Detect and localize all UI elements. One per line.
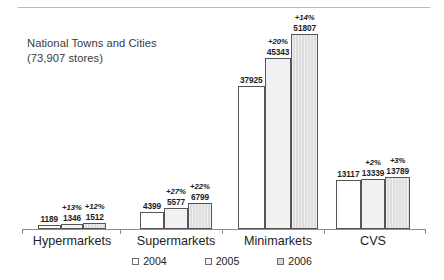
bar-value-label: 13789 [386, 166, 409, 176]
bar-slot-cvs-2004: 13117 [336, 14, 361, 229]
bar-cvs-2004[interactable]: 13117 [336, 180, 361, 229]
bar-slot-supermarkets-2004: 4399 [140, 14, 164, 229]
bar-growth-label: +13% [62, 203, 82, 212]
bar-group-hypermarkets: 11891346+13%1512+12% [38, 14, 106, 229]
bar-row: 1311713339+2%13789+3% [336, 14, 410, 229]
legend-label-2006: 2006 [288, 255, 312, 267]
x-axis-tick-4 [425, 230, 426, 234]
bar-growth-label: +14% [295, 13, 315, 22]
bar-growth-label: +20% [268, 37, 288, 46]
bar-minimarkets-2004[interactable]: 37925 [238, 86, 265, 229]
bar-slot-minimarkets-2005: 45343+20% [265, 14, 292, 229]
chart-container: National Towns and Cities (73,907 stores… [0, 0, 444, 280]
bar-supermarkets-2004[interactable]: 4399 [140, 212, 164, 229]
bar-slot-hypermarkets-2006: 1512+12% [83, 14, 106, 229]
bar-minimarkets-2006[interactable]: 51807+14% [291, 34, 318, 229]
bar-slot-cvs-2006: 13789+3% [385, 14, 410, 229]
legend-swatch-icon-2005 [205, 258, 212, 265]
bar-value-label: 1189 [41, 214, 59, 224]
bar-value-label: 1512 [86, 212, 104, 222]
x-axis-tick-1 [120, 230, 121, 234]
legend-item-2006[interactable]: 2006 [277, 255, 312, 267]
bar-value-label: 13339 [362, 168, 385, 178]
top-divider-rule [18, 7, 430, 8]
legend-label-2005: 2005 [216, 255, 240, 267]
bar-value-label: 37925 [240, 75, 263, 85]
bar-value-label: 1346 [63, 213, 81, 223]
bar-value-label: 6799 [191, 192, 209, 202]
bar-row: 11891346+13%1512+12% [38, 14, 106, 229]
bar-supermarkets-2005[interactable]: 5577+27% [164, 208, 188, 229]
bar-slot-supermarkets-2006: 6799+22% [188, 14, 212, 229]
bar-growth-label: +3% [390, 156, 406, 165]
bar-slot-hypermarkets-2004: 1189 [38, 14, 61, 229]
legend-item-2005[interactable]: 2005 [205, 255, 240, 267]
legend-swatch-icon-2006 [277, 258, 284, 265]
category-label-cvs: CVS [306, 234, 440, 248]
chart-legend: 2004 2005 2006 [0, 255, 444, 267]
bar-slot-hypermarkets-2005: 1346+13% [61, 14, 84, 229]
x-axis-tick-0 [22, 230, 23, 234]
bar-slot-cvs-2005: 13339+2% [361, 14, 386, 229]
bar-growth-label: +12% [85, 202, 105, 211]
bar-supermarkets-2006[interactable]: 6799+22% [188, 203, 212, 229]
bar-slot-minimarkets-2006: 51807+14% [291, 14, 318, 229]
bar-row: 3792545343+20%51807+14% [238, 14, 318, 229]
bar-growth-label: +22% [190, 182, 210, 191]
bar-value-label: 4399 [143, 201, 161, 211]
bar-growth-label: +2% [365, 158, 381, 167]
legend-label-2004: 2004 [143, 255, 167, 267]
bar-group-supermarkets: 43995577+27%6799+22% [140, 14, 212, 229]
legend-item-2004[interactable]: 2004 [132, 255, 167, 267]
bar-growth-label: +27% [166, 187, 186, 196]
bar-cvs-2006[interactable]: 13789+3% [385, 177, 410, 229]
x-axis-tick-2 [222, 230, 223, 234]
bar-group-cvs: 1311713339+2%13789+3% [336, 14, 410, 229]
bar-value-label: 45343 [267, 47, 290, 57]
bar-value-label: 51807 [293, 23, 316, 33]
bar-value-label: 5577 [167, 197, 185, 207]
bar-slot-supermarkets-2005: 5577+27% [164, 14, 188, 229]
x-axis-tick-3 [324, 230, 325, 234]
bar-minimarkets-2005[interactable]: 45343+20% [265, 58, 292, 229]
bar-value-label: 13117 [337, 169, 359, 179]
bar-slot-minimarkets-2004: 37925 [238, 14, 265, 229]
plot-area: 11891346+13%1512+12%43995577+27%6799+22%… [22, 14, 426, 229]
legend-swatch-icon-2004 [132, 258, 139, 265]
bar-row: 43995577+27%6799+22% [140, 14, 212, 229]
bar-cvs-2005[interactable]: 13339+2% [361, 179, 386, 229]
bar-group-minimarkets: 3792545343+20%51807+14% [238, 14, 318, 229]
x-axis-line [22, 229, 426, 230]
